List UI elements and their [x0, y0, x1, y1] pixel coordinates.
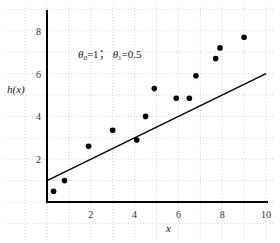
data-point	[86, 144, 92, 150]
data-point	[134, 137, 140, 143]
y-tick-label: 8	[36, 26, 41, 37]
x-tick-label: 2	[88, 209, 93, 220]
data-point	[62, 178, 68, 184]
data-point	[110, 128, 116, 134]
x-tick-label: 4	[132, 209, 137, 220]
y-tick-label: 2	[36, 154, 41, 165]
x-tick-label: 8	[220, 209, 225, 220]
data-point	[152, 86, 158, 92]
data-point	[143, 114, 149, 120]
x-tick-labels: 246810	[88, 209, 271, 220]
x-axis-label: x	[165, 222, 171, 234]
x-tick-label: 6	[176, 209, 181, 220]
x-tick-label: 10	[261, 209, 271, 220]
parameter-annotation: θ0=1；θ1=0.5	[78, 48, 142, 62]
y-tick-label: 6	[36, 69, 41, 80]
chart: 246810 2468 x h(x) θ0=1；θ1=0.5	[0, 0, 280, 243]
data-point	[193, 73, 199, 79]
data-point	[241, 34, 247, 40]
data-point	[187, 95, 193, 101]
grid-lines	[5, 5, 275, 240]
y-tick-labels: 2468	[36, 26, 41, 165]
data-point	[173, 95, 179, 101]
y-axis-label: h(x)	[7, 83, 25, 96]
data-point	[217, 45, 223, 51]
data-point	[51, 189, 57, 195]
data-point	[213, 56, 219, 62]
y-tick-label: 4	[36, 111, 41, 122]
